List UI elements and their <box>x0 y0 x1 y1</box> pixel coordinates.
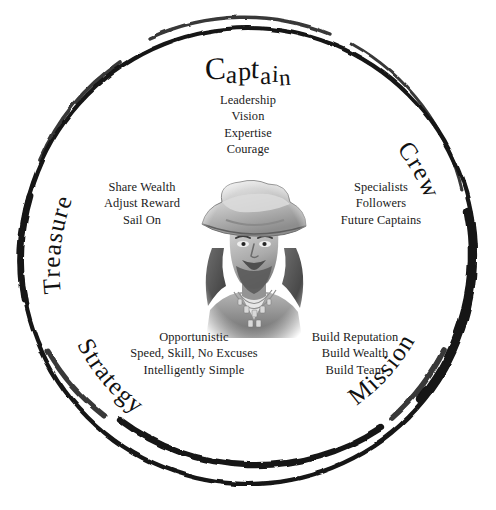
list-item: Share Wealth <box>72 179 212 195</box>
quadrant-mission: Build Reputation Build Wealth Build Team <box>280 329 430 378</box>
pirate-code-wheel: Treasure Crew Strategy Mission Captain L… <box>0 0 496 510</box>
quadrant-crew: Specialists Followers Future Captains <box>306 179 456 228</box>
list-item: Leadership <box>168 92 328 108</box>
page-title: Captain <box>0 52 496 88</box>
title-letter: a <box>226 61 239 89</box>
pirate-captain-portrait <box>196 178 312 338</box>
list-item: Adjust Reward <box>72 195 212 211</box>
title-letter: a <box>260 62 273 90</box>
list-item: Sail On <box>72 212 212 228</box>
quadrant-strategy: Opportunistic Speed, Skill, No Excuses I… <box>104 329 284 378</box>
list-item: Expertise <box>168 125 328 141</box>
list-item: Speed, Skill, No Excuses <box>104 345 284 361</box>
list-item: Future Captains <box>306 212 456 228</box>
list-item: Vision <box>168 108 328 124</box>
list-item: Courage <box>168 141 328 157</box>
quadrant-captain: Leadership Vision Expertise Courage <box>168 92 328 158</box>
title-letter: n <box>278 65 292 92</box>
list-item: Specialists <box>306 179 456 195</box>
list-item: Opportunistic <box>104 329 284 345</box>
title-letter: C <box>204 50 227 87</box>
quadrant-treasure: Share Wealth Adjust Reward Sail On <box>72 179 212 228</box>
list-item: Intelligently Simple <box>104 362 284 378</box>
list-item: Build Reputation <box>280 329 430 345</box>
list-item: Build Team <box>280 362 430 378</box>
list-item: Followers <box>306 195 456 211</box>
list-item: Build Wealth <box>280 345 430 361</box>
